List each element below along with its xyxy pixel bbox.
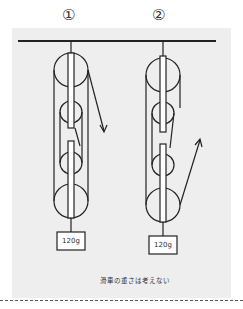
weight-label-1: 120g: [57, 237, 85, 245]
movable-block-axle-1: [68, 141, 74, 218]
weight-label-2: 120g: [149, 241, 177, 249]
pulley-system-2: [146, 41, 202, 254]
fixed-block-axle-1: [68, 53, 74, 128]
dashed-divider: [0, 300, 243, 301]
caption: 滑車の重さは考えない: [60, 275, 210, 285]
pulley-system-1: [54, 41, 107, 250]
fixed-block-axle-2: [160, 56, 166, 132]
pulley-diagram: [0, 0, 243, 309]
movable-block-axle-2: [160, 144, 166, 222]
